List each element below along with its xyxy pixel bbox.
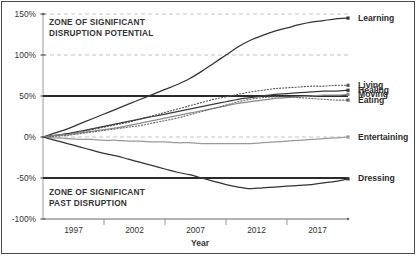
x-tick-label-2007: 2007 xyxy=(171,225,221,235)
series-endpoint-entertaining xyxy=(346,135,349,138)
y-axis-top-marker xyxy=(42,13,45,16)
y-tick-label--100: -100% xyxy=(0,214,36,224)
series-endpoint-learning xyxy=(346,17,349,20)
chart-figure: 150%100%50%0%-50%-100% 19972002200720122… xyxy=(0,0,418,265)
series-endpoint-living xyxy=(346,84,349,87)
series-endpoint-eating xyxy=(346,99,349,102)
y-tick-label--50: -50% xyxy=(0,173,36,183)
series-endpoint-dressing xyxy=(346,177,349,180)
x-axis-title: Year xyxy=(170,238,230,248)
x-tick-label-2002: 2002 xyxy=(110,225,160,235)
series-label-dressing: Dressing xyxy=(358,173,395,183)
series-line-eating xyxy=(43,97,348,137)
series-line-dressing xyxy=(43,137,348,189)
y-tick-label-150: 150% xyxy=(0,9,36,19)
x-tick-label-2012: 2012 xyxy=(232,225,282,235)
series-endpoint-moving xyxy=(346,93,349,96)
series-label-learning: Learning xyxy=(358,13,394,23)
series-label-eating: Eating xyxy=(358,95,384,105)
x-tick-label-1997: 1997 xyxy=(49,225,99,235)
series-label-entertaining: Entertaining xyxy=(358,132,408,142)
series-line-entertaining xyxy=(43,137,348,144)
y-tick-label-50: 50% xyxy=(0,91,36,101)
y-tick-label-100: 100% xyxy=(0,50,36,60)
x-tick-label-2017: 2017 xyxy=(293,225,343,235)
series-line-healing xyxy=(43,90,348,137)
series-endpoint-healing xyxy=(346,89,349,92)
y-tick-label-0: 0% xyxy=(0,132,36,142)
x-axis-end-marker xyxy=(347,218,350,221)
zone-label-disruption-potential: ZONE OF SIGNIFICANT DISRUPTION POTENTIAL xyxy=(49,17,154,39)
series-endpoint-markers-group xyxy=(346,17,349,181)
zone-label-past-disruption: ZONE OF SIGNIFICANT PAST DISRUPTION xyxy=(49,187,145,209)
series-paths-group xyxy=(43,18,348,189)
